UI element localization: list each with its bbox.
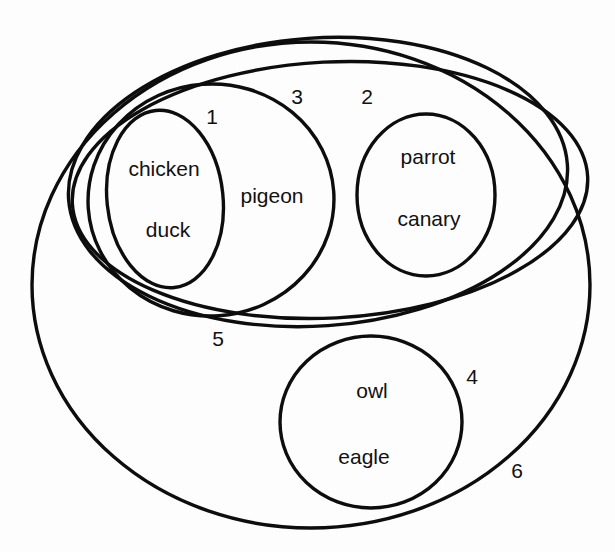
set-number-label-6: 6 (511, 459, 523, 482)
member-label-parrot: parrot (401, 145, 456, 168)
set-boundary-1 (98, 104, 232, 293)
set-number-label-3: 3 (291, 85, 303, 108)
set-number-label-4: 4 (466, 365, 478, 388)
set-boundary-parrot-canary (357, 114, 495, 276)
set-number-label-5: 5 (212, 327, 224, 350)
member-label-duck: duck (146, 218, 191, 241)
member-label-chicken: chicken (128, 157, 199, 180)
set-boundary-6 (32, 42, 590, 528)
set-boundary-4 (280, 336, 462, 508)
member-label-eagle: eagle (338, 445, 389, 468)
nested-set-diagram: chicken duck pigeon parrot canary owl ea… (0, 0, 615, 552)
member-label-canary: canary (397, 207, 461, 230)
member-label-pigeon: pigeon (240, 184, 303, 207)
venn-diagram-canvas: chicken duck pigeon parrot canary owl ea… (0, 0, 615, 552)
set-number-label-1: 1 (206, 105, 218, 128)
set-number-label-2: 2 (361, 85, 373, 108)
member-label-owl: owl (356, 379, 388, 402)
